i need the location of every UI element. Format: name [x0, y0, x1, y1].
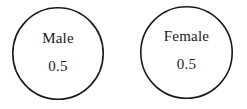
node-female-value: 0.5: [177, 57, 196, 72]
node-male[interactable]: Male 0.5: [12, 7, 104, 100]
node-female-text: Female 0.5: [140, 34, 233, 72]
node-female-label: Female: [164, 29, 209, 44]
node-male-value: 0.5: [48, 59, 67, 74]
node-male-text: Male 0.5: [12, 33, 104, 74]
node-male-label: Male: [42, 31, 74, 46]
node-female[interactable]: Female 0.5: [140, 6, 233, 99]
diagram-canvas: Male 0.5 Female 0.5: [0, 0, 247, 109]
